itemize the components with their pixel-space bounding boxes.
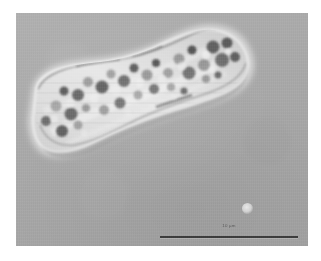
sensor-noise-overlay: [16, 13, 308, 246]
screenshot-root: 10 µm: [0, 0, 321, 261]
micrograph-image: 10 µm: [16, 13, 308, 246]
